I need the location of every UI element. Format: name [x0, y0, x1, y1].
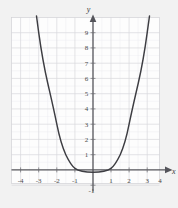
- y-tick-label: 8: [85, 44, 89, 52]
- x-tick-label: 1: [109, 177, 113, 185]
- y-tick-label: 7: [85, 60, 89, 68]
- y-tick-label: 1: [85, 151, 89, 159]
- x-axis-label: x: [171, 167, 176, 176]
- y-tick-label: 2: [85, 136, 89, 144]
- coordinate-plane-chart: -4 -3 -2 -1 1 2 3 4 1 2 3 4 5 6 7 8 9 -1…: [0, 0, 178, 208]
- y-tick-label: 5: [85, 90, 89, 98]
- graph-figure: -4 -3 -2 -1 1 2 3 4 1 2 3 4 5 6 7 8 9 -1…: [0, 0, 178, 208]
- x-tick-label: -2: [54, 177, 60, 185]
- x-tick-label: -4: [18, 177, 24, 185]
- y-tick-label: 6: [85, 75, 89, 83]
- x-tick-label: -1: [72, 177, 78, 185]
- y-axis-label: y: [86, 5, 91, 14]
- x-tick-label: 2: [127, 177, 131, 185]
- y-tick-label-negative: -1: [89, 187, 95, 195]
- y-tick-label: 9: [85, 29, 89, 37]
- x-tick-label: -3: [36, 177, 42, 185]
- y-tick-label: 3: [85, 121, 89, 129]
- x-tick-label: 3: [145, 177, 149, 185]
- y-tick-label: 4: [85, 105, 89, 113]
- x-tick-label: 4: [158, 177, 162, 185]
